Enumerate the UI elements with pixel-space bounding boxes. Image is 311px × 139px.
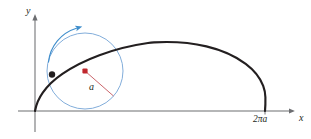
generating-point-dot [49,71,55,77]
circle-center-dot [82,68,87,73]
cycloid-figure: y x 2πa a [0,0,311,139]
x-tick-label-2pia: 2πa [253,115,267,125]
cycloid-curve [35,42,265,111]
y-axis-label: y [26,6,30,16]
rotation-arrow [49,28,77,62]
x-axis-label: x [299,113,303,123]
radius-label-a: a [89,82,94,92]
